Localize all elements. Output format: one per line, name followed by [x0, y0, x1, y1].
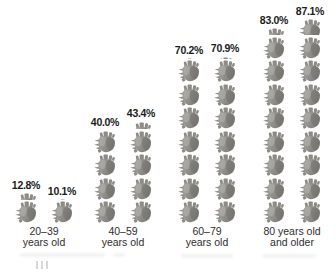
- age-group-60-79: 70.2%70.9%60–79years old: [162, 41, 252, 274]
- heart-column: 87.1%: [299, 4, 322, 223]
- anatomical-heart-icon: [178, 107, 201, 129]
- anatomical-heart-icon: [94, 154, 117, 176]
- value-label-wrap: 87.1%: [299, 4, 322, 17]
- anatomical-heart-icon: [130, 201, 153, 223]
- heart-column: 12.8%: [15, 178, 38, 223]
- value-label-wrap: 40.0%: [94, 115, 117, 128]
- anatomical-heart-icon: [263, 107, 286, 129]
- partial-heart-icon: [263, 28, 286, 35]
- age-group-80-plus: 83.0%87.1%80 years oldand older: [247, 4, 336, 274]
- age-group-label: 20–39years old: [23, 226, 66, 248]
- value-label-wrap: 12.8%: [15, 178, 38, 191]
- partial-heart-icon: [15, 193, 38, 199]
- anatomical-heart-icon: [263, 37, 286, 59]
- age-group-label: 80 years oldand older: [263, 226, 320, 248]
- anatomical-heart-icon: [178, 154, 201, 176]
- anatomical-heart-icon: [299, 19, 322, 35]
- anatomical-heart-icon: [130, 122, 153, 130]
- anatomical-heart-icon: [15, 193, 38, 199]
- heart-column: 43.4%: [130, 106, 153, 223]
- anatomical-heart-icon: [214, 57, 237, 59]
- age-group-label-line: years old: [186, 237, 229, 248]
- anatomical-heart-icon: [51, 201, 74, 223]
- anatomical-heart-icon: [263, 28, 286, 35]
- anatomical-heart-icon: [263, 154, 286, 176]
- anatomical-heart-icon: [263, 131, 286, 153]
- value-label: 40.0%: [91, 116, 119, 128]
- value-label: 10.1%: [48, 185, 76, 197]
- value-label-wrap: 10.1%: [51, 184, 74, 197]
- partial-heart-icon: [130, 122, 153, 130]
- age-group-label: 60–79years old: [186, 226, 229, 248]
- anatomical-heart-icon: [299, 37, 322, 59]
- anatomical-heart-icon: [178, 60, 201, 82]
- age-group-40-59: 40.0%43.4%40–59years old: [78, 106, 168, 274]
- anatomical-heart-icon: [214, 84, 237, 106]
- anatomical-heart-icon: [263, 201, 286, 223]
- anatomical-heart-icon: [94, 178, 117, 200]
- value-label-wrap: 70.9%: [214, 41, 237, 54]
- value-label: 43.4%: [127, 107, 155, 119]
- anatomical-heart-icon: [299, 201, 322, 223]
- heart-column: 70.2%: [178, 43, 201, 223]
- anatomical-heart-icon: [214, 201, 237, 223]
- anatomical-heart-icon: [15, 201, 38, 223]
- anatomical-heart-icon: [299, 154, 322, 176]
- anatomical-heart-icon: [178, 131, 201, 153]
- anatomical-heart-icon: [299, 107, 322, 129]
- value-label-wrap: 70.2%: [178, 43, 201, 56]
- heart-column: 10.1%: [51, 184, 74, 223]
- anatomical-heart-icon: [214, 60, 237, 82]
- heart-columns-row: 83.0%87.1%: [263, 4, 322, 223]
- anatomical-heart-icon: [214, 154, 237, 176]
- anatomical-heart-icon: [94, 201, 117, 223]
- anatomical-heart-icon: [299, 178, 322, 200]
- value-label: 70.2%: [175, 44, 203, 56]
- partial-heart-icon: [214, 57, 237, 59]
- anatomical-heart-icon: [263, 60, 286, 82]
- value-label: 70.9%: [211, 42, 239, 54]
- anatomical-heart-icon: [130, 178, 153, 200]
- age-group-20-39: 12.8%10.1%20–39years old: [0, 178, 89, 274]
- heart-column: 40.0%: [94, 115, 117, 223]
- anatomical-heart-icon: [130, 154, 153, 176]
- anatomical-heart-icon: [263, 178, 286, 200]
- anatomical-heart-icon: [299, 84, 322, 106]
- age-group-label-line: and older: [263, 237, 320, 248]
- anatomical-heart-icon: [94, 131, 117, 153]
- heart-columns-row: 70.2%70.9%: [178, 41, 237, 223]
- anatomical-heart-icon: [214, 178, 237, 200]
- anatomical-heart-icon: [178, 178, 201, 200]
- value-label-wrap: 83.0%: [263, 13, 286, 26]
- anatomical-heart-icon: [178, 201, 201, 223]
- age-group-label-line: years old: [102, 237, 145, 248]
- age-group-label-line: years old: [23, 237, 66, 248]
- value-label-wrap: 43.4%: [130, 106, 153, 119]
- value-label: 87.1%: [296, 5, 324, 17]
- heart-columns-row: 40.0%43.4%: [94, 106, 153, 223]
- heart-columns-row: 12.8%10.1%: [15, 178, 74, 223]
- heart-column: 83.0%: [263, 13, 286, 223]
- value-label: 12.8%: [12, 179, 40, 191]
- heart-disease-prevalence-pictogram-chart: 12.8%10.1%20–39years old40.0%43.4%40–59y…: [0, 0, 336, 274]
- anatomical-heart-icon: [299, 60, 322, 82]
- anatomical-heart-icon: [263, 84, 286, 106]
- anatomical-heart-icon: [214, 107, 237, 129]
- anatomical-heart-icon: [299, 131, 322, 153]
- anatomical-heart-icon: [130, 131, 153, 153]
- anatomical-heart-icon: [214, 131, 237, 153]
- anatomical-heart-icon: [178, 84, 201, 106]
- heart-column: 70.9%: [214, 41, 237, 223]
- value-label: 83.0%: [260, 14, 288, 26]
- age-group-label: 40–59years old: [102, 226, 145, 248]
- partial-heart-icon: [299, 19, 322, 35]
